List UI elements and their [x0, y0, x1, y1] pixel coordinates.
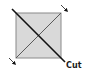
arrow-bottom-left-icon — [9, 58, 15, 64]
cut-label: Cut — [66, 61, 82, 71]
arrow-top-right-icon — [61, 5, 67, 11]
